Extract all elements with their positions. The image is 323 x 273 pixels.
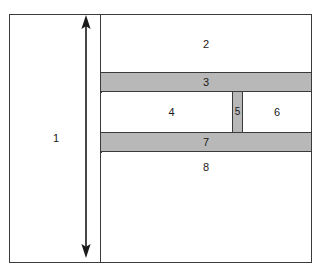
figure-canvas: 1 2 3 4 5 6 7 8 <box>0 0 323 273</box>
region-6-core-right: 6 <box>243 93 311 132</box>
region-2-label: 2 <box>203 39 209 50</box>
region-3-label: 3 <box>203 77 209 88</box>
region-5-vertical-bar: 5 <box>232 92 243 132</box>
region-7-shaded-band: 7 <box>101 132 311 152</box>
region-3-shaded-band: 3 <box>101 72 311 92</box>
region-1-label: 1 <box>53 133 59 144</box>
region-7-label: 7 <box>203 137 209 148</box>
region-6-label: 6 <box>274 107 280 118</box>
region-8-label: 8 <box>203 162 209 173</box>
region-4-label: 4 <box>168 107 174 118</box>
region-2-layer: 2 <box>101 15 311 72</box>
cropped-caption-remnant <box>4 0 184 6</box>
region-4-core-left: 4 <box>101 93 232 132</box>
height-dimension-arrow-icon <box>76 14 96 259</box>
region-8-layer: 8 <box>101 153 311 262</box>
region-5-label: 5 <box>235 107 241 117</box>
